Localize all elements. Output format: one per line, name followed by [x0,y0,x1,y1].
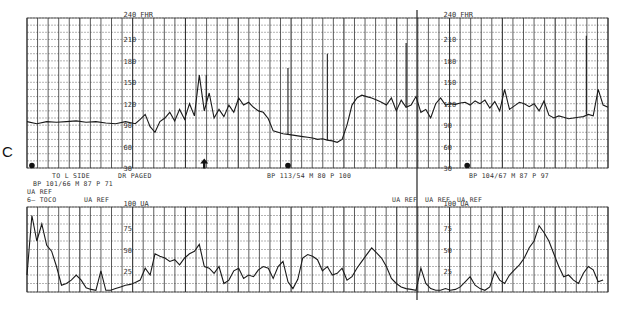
annotation-to-l-side: TO L SIDE [52,172,90,180]
annotation-bp-1: BP 101/66 M 87 P 71 [33,180,113,188]
ctg-tracing-chart: 306090120150180210240 FHR306090120150180… [0,0,623,335]
svg-text:50: 50 [444,247,452,255]
svg-text:25: 25 [123,268,131,276]
svg-text:210: 210 [444,36,457,44]
ua-trace [27,216,603,291]
annotation-toco: 6— TOCO [27,196,57,204]
svg-text:60: 60 [123,144,131,152]
svg-text:100 UA: 100 UA [123,200,149,208]
svg-text:150: 150 [123,79,136,87]
svg-text:75: 75 [123,225,131,233]
svg-text:120: 120 [123,101,136,109]
svg-text:180: 180 [123,58,136,66]
ua-grid [27,207,608,292]
svg-text:25: 25 [444,268,452,276]
annotation-ua-ref-1: UA REF [27,188,52,196]
panel-label: C [2,143,13,160]
svg-text:90: 90 [123,122,131,130]
svg-text:50: 50 [123,247,131,255]
annotation-ua-ref-5: UA REF [457,196,482,204]
annotation-bp-2: BP 113/54 M 80 P 100 [267,172,351,180]
annotation-bp-3: BP 104/67 M 87 P 97 [469,172,549,180]
fhr-grid [27,18,608,168]
svg-text:75: 75 [444,225,452,233]
annotation-dr-paged: DR PAGED [118,172,152,180]
svg-text:90: 90 [444,122,452,130]
annotation-ua-ref-2: UA REF [84,196,109,204]
svg-text:240 FHR: 240 FHR [444,11,474,19]
event-markers [29,159,470,169]
annotation-ua-ref-3: UA REF [392,196,417,204]
svg-text:240 FHR: 240 FHR [123,11,153,19]
svg-text:210: 210 [123,36,136,44]
annotation-ua-ref-4: UA REF [425,196,450,204]
fhr-axis-labels: 306090120150180210240 FHR306090120150180… [123,11,473,173]
svg-text:30: 30 [444,165,452,173]
svg-text:60: 60 [444,144,452,152]
svg-text:150: 150 [444,79,457,87]
svg-text:180: 180 [444,58,457,66]
